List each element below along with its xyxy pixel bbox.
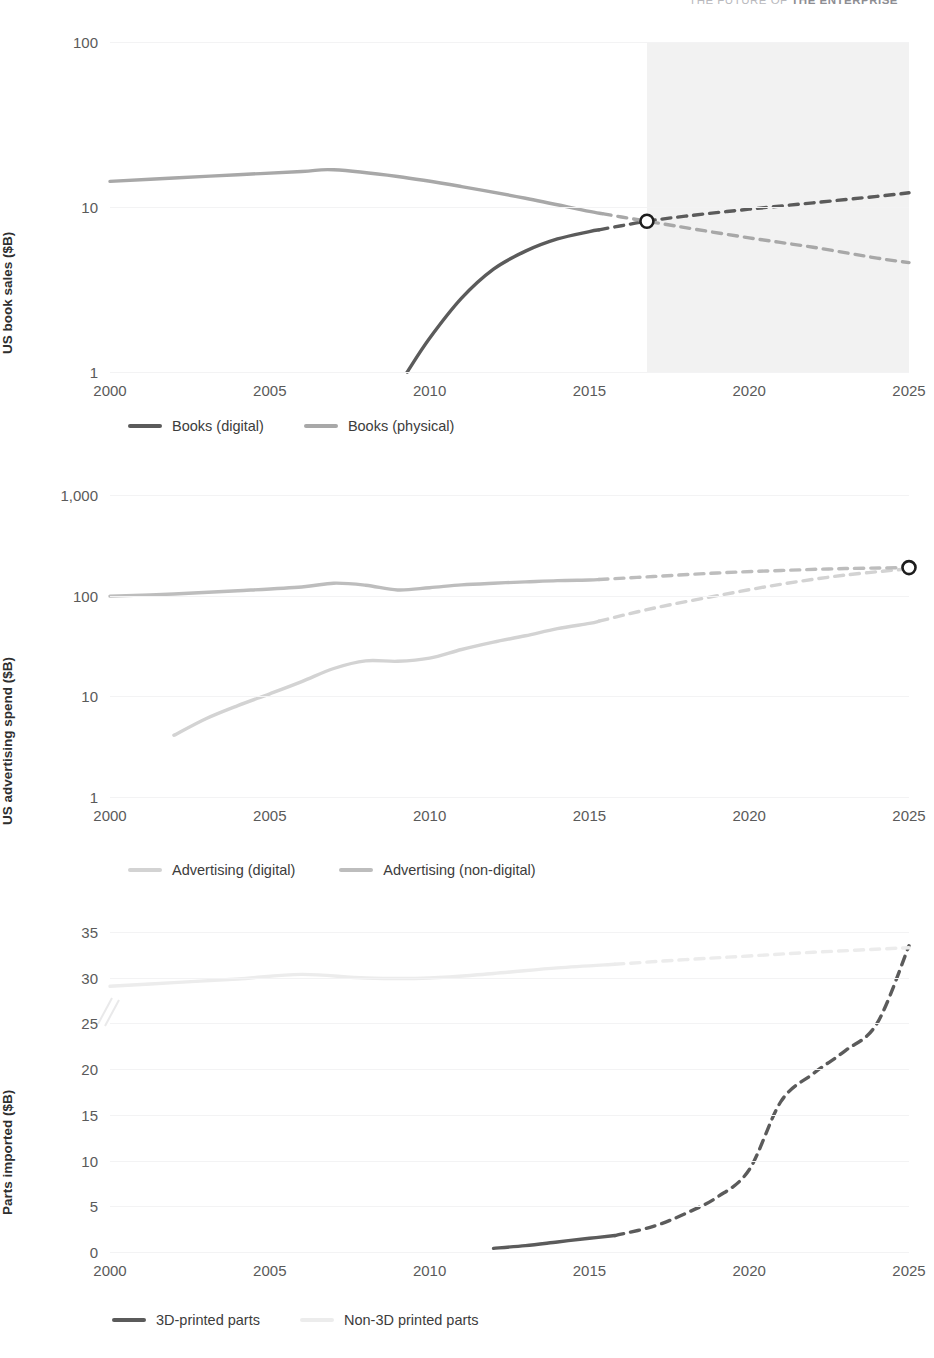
legend-item-books-physical[interactable]: Books (physical) [304,418,454,434]
legend-swatch-3d-printed-parts [112,1318,146,1322]
legend-item-advertising-digital[interactable]: Advertising (digital) [128,862,295,878]
series-line-3d-printed-parts [615,946,909,1236]
x-tick-label: 2025 [892,382,925,399]
plot-area-parts-imported: 35302520151050200020052010201520202025 [110,932,909,1252]
series-line-books-digital [407,230,599,372]
x-tick-label: 2000 [93,382,126,399]
chart-parts-imported: Parts imported ($B) 35302520151050200020… [0,920,934,1358]
series-line-advertising-non-digital [110,580,599,597]
y-tick-label: 35 [81,924,98,941]
x-tick-label: 2000 [93,807,126,824]
plot-area-book-sales: 100101200020052010201520202025 [110,42,909,372]
x-tick-label: 2005 [253,382,286,399]
series-line-non-3d-printed-parts [615,948,909,965]
x-tick-label: 2020 [733,807,766,824]
gridline [110,495,909,496]
plot-area-ad-spend: 1,000100101200020052010201520202025 [110,495,909,797]
legend-label-books-physical: Books (physical) [348,418,454,434]
gridline [110,978,909,979]
gridline [110,1023,909,1024]
gridline [110,372,909,373]
x-tick-label: 2025 [892,1262,925,1279]
legend-item-non-3d-printed-parts[interactable]: Non-3D printed parts [300,1312,479,1328]
x-tick-label: 2015 [573,382,606,399]
legend-swatch-non-3d-printed-parts [300,1318,334,1322]
series-line-advertising-digital [174,621,599,735]
y-tick-label: 25 [81,1015,98,1032]
gridline [110,1115,909,1116]
legend-label-books-digital: Books (digital) [172,418,264,434]
gridline [110,1069,909,1070]
x-tick-label: 2000 [93,1262,126,1279]
y-tick-label: 10 [81,688,98,705]
gridline [110,696,909,697]
gridline [110,207,909,208]
legend-swatch-books-physical [304,424,338,428]
y-tick-label: 15 [81,1106,98,1123]
y-tick-label: 20 [81,1061,98,1078]
legend-swatch-books-digital [128,424,162,428]
x-tick-label: 2005 [253,1262,286,1279]
x-tick-label: 2015 [573,807,606,824]
gridline [110,1161,909,1162]
gridline [110,1206,909,1207]
series-layer-parts-imported [110,932,410,1082]
report-page: THE FUTURE OF THE ENTERPRISE US book sal… [0,0,934,1358]
x-tick-label: 2005 [253,807,286,824]
y-tick-label: 30 [81,969,98,986]
x-tick-label: 2025 [892,807,925,824]
x-tick-label: 2010 [413,382,446,399]
crossover-marker [903,561,916,574]
running-header-bold: THE ENTERPRISE [791,0,898,6]
gridline [110,42,909,43]
legend-parts-imported: 3D-printed parts Non-3D printed parts [112,1312,479,1328]
gridline [110,1252,909,1253]
legend-label-3d-printed-parts: 3D-printed parts [156,1312,260,1328]
legend-label-advertising-non-digital: Advertising (non-digital) [383,862,535,878]
legend-label-advertising-digital: Advertising (digital) [172,862,295,878]
y-tick-label: 0 [90,1244,98,1261]
legend-item-advertising-non-digital[interactable]: Advertising (non-digital) [339,862,535,878]
chart-book-sales: US book sales ($B) 100101200020052010201… [0,24,934,424]
axis-title-ad-spend: US advertising spend ($B) [0,657,15,825]
legend-item-books-digital[interactable]: Books (digital) [128,418,264,434]
x-tick-label: 2010 [413,807,446,824]
running-header-prefix: THE FUTURE OF [689,0,791,6]
legend-book-sales: Books (digital) Books (physical) [128,418,454,434]
series-layer-book-sales [110,42,410,192]
series-line-advertising-non-digital [599,568,909,580]
legend-ad-spend: Advertising (digital) Advertising (non-d… [128,862,536,878]
x-tick-label: 2010 [413,1262,446,1279]
x-tick-label: 2020 [733,1262,766,1279]
legend-swatch-advertising-non-digital [339,868,373,872]
gridline [110,596,909,597]
y-tick-label: 5 [90,1198,98,1215]
legend-swatch-advertising-digital [128,868,162,872]
y-tick-label: 1 [90,364,98,381]
y-tick-label: 100 [73,34,98,51]
legend-item-3d-printed-parts[interactable]: 3D-printed parts [112,1312,260,1328]
x-tick-label: 2015 [573,1262,606,1279]
chart-ad-spend: US advertising spend ($B) 1,000100101200… [0,470,934,890]
series-line-non-3d-printed-parts [110,964,615,986]
y-tick-label: 1 [90,789,98,806]
axis-title-book-sales: US book sales ($B) [0,232,15,354]
series-line-3d-printed-parts [494,1236,615,1249]
y-tick-label: 10 [81,199,98,216]
crossover-marker [640,215,653,228]
x-tick-label: 2020 [733,382,766,399]
legend-label-non-3d-printed-parts: Non-3D printed parts [344,1312,479,1328]
y-tick-label: 10 [81,1152,98,1169]
y-tick-label: 1,000 [60,487,98,504]
gridline [110,797,909,798]
axis-title-parts-imported: Parts imported ($B) [0,1090,15,1215]
running-header: THE FUTURE OF THE ENTERPRISE [689,0,898,6]
series-layer-ad-spend [110,495,410,645]
y-tick-label: 100 [73,587,98,604]
gridline [110,932,909,933]
